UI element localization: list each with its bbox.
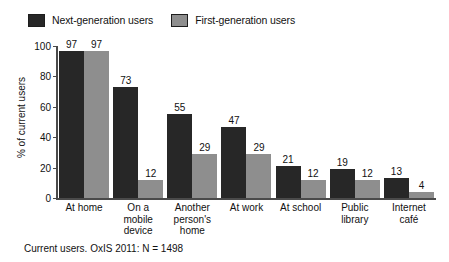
x-axis-label-line: device (111, 225, 165, 237)
x-axis-label: At home (57, 202, 111, 214)
x-axis-label-line: person's (165, 214, 219, 226)
x-axis-label: Anotherperson'shome (165, 202, 219, 237)
bar-value-label: 12 (308, 168, 319, 179)
y-axis-tick-label: 40 (40, 132, 51, 143)
bar (355, 180, 380, 198)
bar-column: 97 (84, 46, 109, 198)
y-axis-tick-label: 80 (40, 71, 51, 82)
chart-caption: Current users. OxIS 2011: N = 1498 (24, 243, 183, 254)
bar-group: 4729 (219, 46, 273, 198)
bar-column: 12 (301, 46, 326, 198)
bar-group: 9797 (57, 46, 111, 198)
x-axis-label: Internetcafé (382, 202, 436, 225)
legend-label: First-generation users (195, 14, 295, 27)
bar-value-label: 97 (91, 39, 102, 50)
bar (192, 154, 217, 198)
x-axis-label: On amobiledevice (111, 202, 165, 237)
x-axis-label: At school (274, 202, 328, 214)
bar-value-label: 21 (283, 154, 294, 165)
legend-label: Next-generation users (52, 14, 153, 27)
x-axis-label: At work (219, 202, 273, 214)
x-axis-label: Publiclibrary (328, 202, 382, 225)
bar-column: 29 (192, 46, 217, 198)
bar-column: 4 (409, 46, 434, 198)
bar-column: 47 (221, 46, 246, 198)
legend-swatch-icon (28, 14, 45, 27)
bar-value-label: 4 (419, 180, 425, 191)
bar-column: 55 (167, 46, 192, 198)
legend-item: Next-generation users (28, 14, 153, 27)
bar-value-label: 47 (228, 115, 239, 126)
x-axis-label-line: library (328, 214, 382, 226)
plot-area: 100806040200 979773125529472921121912134 (57, 46, 436, 198)
bar-column: 73 (113, 46, 138, 198)
bar-column: 19 (330, 46, 355, 198)
bar-value-label: 19 (337, 157, 348, 168)
bar-group: 5529 (165, 46, 219, 198)
x-axis-label-line: On a (111, 202, 165, 214)
x-axis-label-line: At work (219, 202, 273, 214)
bar-column: 12 (355, 46, 380, 198)
bar-value-label: 12 (145, 168, 156, 179)
bar-value-label: 55 (174, 102, 185, 113)
bar (276, 166, 301, 198)
bar-value-label: 73 (120, 75, 131, 86)
bar (409, 192, 434, 198)
bar-group: 134 (382, 46, 436, 198)
x-axis-label-line: At home (57, 202, 111, 214)
bar-column: 29 (246, 46, 271, 198)
y-axis-tick-mark (53, 198, 57, 199)
bar-group: 2112 (274, 46, 328, 198)
bar (246, 154, 271, 198)
bar-column: 21 (276, 46, 301, 198)
bar-value-label: 13 (391, 166, 402, 177)
y-axis-tick-label: 20 (40, 162, 51, 173)
bar-column: 97 (59, 46, 84, 198)
bar-chart-figure: Next-generation usersFirst-generation us… (0, 0, 449, 262)
bar-value-label: 29 (199, 142, 210, 153)
bar-value-label: 29 (253, 142, 264, 153)
legend-swatch-icon (171, 14, 188, 27)
x-axis-label-line: home (165, 225, 219, 237)
bar (138, 180, 163, 198)
bar-groups: 979773125529472921121912134 (57, 46, 436, 198)
legend-item: First-generation users (171, 14, 295, 27)
bar (84, 51, 109, 198)
bar (301, 180, 326, 198)
x-axis-label-line: At school (274, 202, 328, 214)
bar-group: 7312 (111, 46, 165, 198)
bar-group: 1912 (328, 46, 382, 198)
x-axis-label-line: mobile (111, 214, 165, 226)
bar-column: 13 (384, 46, 409, 198)
bar-value-label: 97 (66, 39, 77, 50)
bar (113, 87, 138, 198)
x-axis-line (56, 198, 436, 200)
bar-value-label: 12 (362, 168, 373, 179)
x-axis-label-line: Internet (382, 202, 436, 214)
x-axis-label-line: Public (328, 202, 382, 214)
y-axis-tick-label: 0 (45, 193, 51, 204)
bar-column: 12 (138, 46, 163, 198)
chart-legend: Next-generation usersFirst-generation us… (28, 12, 295, 28)
bar (221, 127, 246, 198)
y-axis-tick-label: 60 (40, 101, 51, 112)
x-axis-label-line: café (382, 214, 436, 226)
bar (59, 51, 84, 198)
y-axis-tick-label: 100 (34, 41, 51, 52)
x-axis-labels: At homeOn amobiledeviceAnotherperson'sho… (57, 202, 436, 237)
x-axis-label-line: Another (165, 202, 219, 214)
bar (167, 114, 192, 198)
bar (384, 178, 409, 198)
bar (330, 169, 355, 198)
y-axis-title: % of current users (16, 53, 27, 183)
